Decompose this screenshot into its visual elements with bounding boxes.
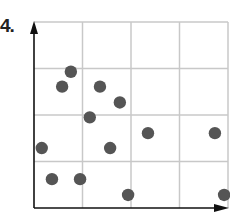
data-point bbox=[104, 142, 116, 154]
axes bbox=[30, 21, 229, 212]
data-point bbox=[56, 80, 68, 92]
data-point bbox=[209, 127, 221, 139]
data-point bbox=[36, 142, 48, 154]
data-point bbox=[94, 80, 106, 92]
data-point bbox=[142, 127, 154, 139]
data-point bbox=[218, 189, 230, 201]
data-point bbox=[122, 189, 134, 201]
data-point bbox=[114, 96, 126, 108]
data-point bbox=[46, 173, 58, 185]
grid-lines bbox=[34, 22, 228, 208]
scatter-plot bbox=[0, 0, 230, 213]
data-point bbox=[65, 66, 77, 78]
y-axis-arrow-icon bbox=[30, 21, 38, 34]
x-axis-arrow-icon bbox=[214, 204, 229, 212]
data-points bbox=[36, 66, 230, 202]
data-point bbox=[74, 173, 86, 185]
data-point bbox=[84, 111, 96, 123]
